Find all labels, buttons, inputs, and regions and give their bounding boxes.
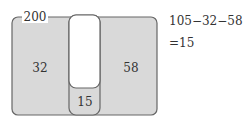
overlap-bottom-value: 15 <box>77 95 92 109</box>
equation-line-2: =15 <box>169 36 194 50</box>
equation-line-1: 105−32−58 <box>169 14 243 28</box>
left-region-value: 32 <box>32 61 47 75</box>
total-label: 200 <box>24 10 47 24</box>
right-region-value: 58 <box>123 61 138 75</box>
inner-blank-region <box>69 15 100 88</box>
